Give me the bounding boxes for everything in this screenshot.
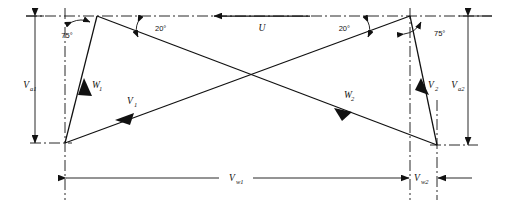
dimension-Va2-subscript: a2 bbox=[458, 85, 465, 92]
angle-left-20-arc bbox=[136, 22, 138, 37]
angle-right-20-arc bbox=[368, 22, 370, 37]
dimension-Va1-subscript: a1 bbox=[30, 85, 37, 92]
vector-V2-subscript: 2 bbox=[435, 85, 439, 92]
vector-W1-subscript: 1 bbox=[99, 85, 102, 92]
vector-U-label: U bbox=[259, 23, 267, 33]
dimension-Vw1-label: V bbox=[229, 173, 236, 183]
angle-right-75-label: 75° bbox=[434, 29, 445, 38]
angle-right-20-label: 20° bbox=[339, 24, 350, 33]
vector-V1-subscript: 1 bbox=[134, 101, 137, 108]
diagram-canvas: U W 1 V 1 W 2 V 2 75° 20° 20° 75° bbox=[0, 0, 506, 216]
vector-W2-line bbox=[97, 16, 437, 145]
angle-left-20-label: 20° bbox=[155, 24, 166, 33]
vector-W2-subscript: 2 bbox=[351, 95, 355, 102]
velocity-triangle-figure: U W 1 V 1 W 2 V 2 75° 20° 20° 75° bbox=[0, 0, 506, 216]
dimension-Vw1-subscript: w1 bbox=[236, 178, 244, 185]
vector-V1-label: V bbox=[127, 96, 134, 106]
angle-left-75-label: 75° bbox=[61, 31, 72, 40]
vector-V2-arrowhead bbox=[415, 78, 429, 95]
vector-V2-label: V bbox=[428, 80, 435, 90]
vector-V1-line bbox=[65, 16, 410, 143]
dimension-Vw2-subscript: w2 bbox=[421, 178, 429, 185]
dimension-Vw2-label: V bbox=[414, 173, 421, 183]
angle-left-75-arc bbox=[72, 20, 90, 22]
